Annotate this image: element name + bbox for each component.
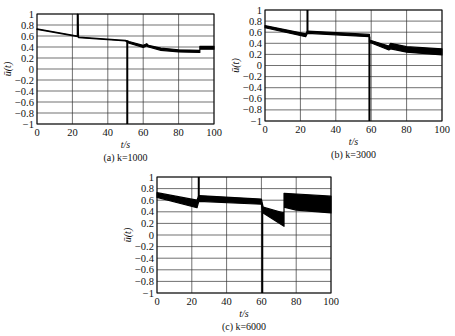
chart-b-k3000: 10.80.60.40.20−0.2−0.4−0.6−0.8−102040608…: [228, 0, 455, 165]
y-axis-label: ū(t): [230, 58, 242, 73]
svg-text:0.6: 0.6: [21, 31, 34, 42]
svg-text:−0.2: −0.2: [135, 241, 154, 252]
x-tick-labels: 020406080100: [154, 296, 339, 307]
svg-text:80: 80: [173, 127, 184, 138]
svg-text:−0.4: −0.4: [135, 253, 155, 264]
svg-text:0.6: 0.6: [249, 27, 262, 38]
x-axis-label: t/s: [239, 308, 249, 319]
svg-text:20: 20: [67, 127, 78, 138]
chart-a-svg: 10.80.60.40.20−0.2−0.4−0.6−0.8−102040608…: [0, 0, 230, 165]
svg-text:0: 0: [262, 124, 267, 135]
response-band: [157, 193, 331, 227]
svg-text:0.8: 0.8: [249, 16, 262, 27]
svg-text:60: 60: [138, 127, 149, 138]
svg-text:−0.4: −0.4: [243, 82, 263, 93]
svg-text:0.8: 0.8: [141, 183, 154, 194]
svg-text:100: 100: [434, 124, 450, 135]
panel-caption: (b) k=3000: [331, 149, 376, 161]
svg-text:20: 20: [187, 296, 198, 307]
svg-text:20: 20: [295, 124, 306, 135]
y-axis-label: ū(t): [2, 61, 14, 76]
svg-text:−0.4: −0.4: [15, 86, 35, 97]
svg-text:0: 0: [29, 64, 34, 75]
x-tick-labels: 020406080100: [262, 124, 450, 135]
svg-text:0: 0: [34, 127, 39, 138]
x-axis-label: t/s: [121, 139, 131, 150]
svg-text:−1: −1: [143, 288, 154, 299]
svg-text:0.4: 0.4: [249, 38, 263, 49]
svg-text:−0.6: −0.6: [15, 97, 34, 108]
y-tick-labels: 10.80.60.40.20−0.2−0.4−0.6−0.8−1: [15, 9, 35, 130]
svg-text:−1: −1: [251, 116, 262, 127]
svg-text:0.2: 0.2: [249, 49, 262, 60]
svg-text:−0.8: −0.8: [243, 104, 262, 115]
grid: [265, 10, 442, 121]
svg-text:60: 60: [256, 296, 267, 307]
y-tick-labels: 10.80.60.40.20−0.2−0.4−0.6−0.8−1: [243, 5, 263, 127]
svg-text:1: 1: [149, 172, 154, 183]
svg-text:60: 60: [366, 124, 377, 135]
svg-text:0.8: 0.8: [21, 20, 34, 31]
svg-text:100: 100: [323, 296, 339, 307]
chart-c-k6000: 10.80.60.40.20−0.2−0.4−0.6−0.8−102040608…: [120, 165, 350, 336]
svg-text:−0.6: −0.6: [135, 264, 154, 275]
svg-text:40: 40: [221, 296, 232, 307]
svg-text:0: 0: [154, 296, 159, 307]
svg-text:0.2: 0.2: [141, 218, 154, 229]
svg-text:0.2: 0.2: [21, 53, 34, 64]
response-band: [265, 26, 442, 55]
svg-text:−0.2: −0.2: [243, 71, 262, 82]
svg-text:0: 0: [149, 230, 154, 241]
svg-text:0: 0: [257, 60, 262, 71]
grid: [37, 14, 214, 124]
x-axis-label: t/s: [349, 136, 359, 147]
x-tick-labels: 020406080100: [34, 127, 222, 138]
svg-text:0.4: 0.4: [141, 206, 155, 217]
svg-text:−1: −1: [23, 119, 34, 130]
svg-text:40: 40: [103, 127, 114, 138]
svg-text:0.4: 0.4: [21, 42, 35, 53]
svg-text:80: 80: [291, 296, 302, 307]
panel-caption: (c) k=6000: [222, 321, 266, 333]
svg-text:1: 1: [29, 9, 34, 20]
svg-text:1: 1: [257, 5, 262, 16]
svg-text:100: 100: [206, 127, 222, 138]
svg-text:−0.8: −0.8: [15, 108, 34, 119]
svg-text:−0.8: −0.8: [135, 276, 154, 287]
chart-b-svg: 10.80.60.40.20−0.2−0.4−0.6−0.8−102040608…: [228, 0, 455, 165]
chart-c-svg: 10.80.60.40.20−0.2−0.4−0.6−0.8−102040608…: [120, 165, 350, 336]
svg-text:40: 40: [331, 124, 342, 135]
svg-text:−0.2: −0.2: [15, 75, 34, 86]
svg-text:−0.6: −0.6: [243, 93, 262, 104]
svg-text:80: 80: [401, 124, 412, 135]
y-tick-labels: 10.80.60.40.20−0.2−0.4−0.6−0.8−1: [135, 172, 155, 299]
svg-text:0.6: 0.6: [141, 195, 154, 206]
y-axis-label: ū(t): [122, 227, 134, 242]
panel-caption: (a) k=1000: [103, 152, 147, 164]
chart-a-k1000: 10.80.60.40.20−0.2−0.4−0.6−0.8−102040608…: [0, 0, 230, 165]
